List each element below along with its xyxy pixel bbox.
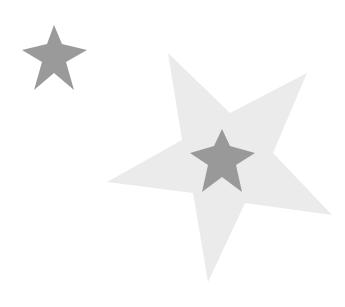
star-canvas [0,0,345,307]
small-star-icon [22,25,87,90]
